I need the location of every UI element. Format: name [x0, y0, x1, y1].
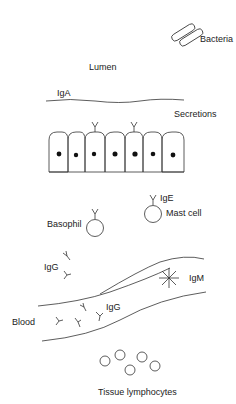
lumen-label: Lumen [89, 63, 117, 72]
epithelium [49, 122, 184, 172]
basophil-label: Basophil [47, 220, 82, 229]
secretion-line [46, 99, 184, 102]
tissue-lymphocytes [100, 350, 160, 375]
basophil-cell [87, 209, 104, 237]
bacteria-label: Bacteria [200, 35, 233, 44]
igm-pentamer-icon [159, 268, 179, 288]
tissue-lymphocytes-label: Tissue lymphocytes [98, 388, 177, 397]
iga-receptor-icon [92, 122, 98, 132]
secretions-label: Secretions [174, 110, 217, 119]
ige-antibody-icon [92, 209, 98, 219]
ige-antibody-icon [150, 195, 156, 205]
blood-label: Blood [12, 318, 35, 327]
iga-label: IgA [57, 89, 71, 98]
immunoglobulin-diagram: Bacteria Lumen IgA Secretions IgE Mast c… [0, 0, 236, 404]
iga-receptor-icon [131, 122, 137, 132]
igg-blood-label: IgG [106, 303, 121, 312]
cell-nuclei [57, 151, 176, 157]
blood-vessel [38, 257, 206, 341]
mast-cell [145, 195, 162, 223]
igg-tissue-antibodies [63, 251, 71, 279]
diagram-graphics [0, 0, 236, 404]
igm-label: IgM [189, 274, 204, 283]
ige-label: IgE [160, 194, 174, 203]
igg-blood-antibodies [56, 303, 103, 327]
igg-tissue-label: IgG [44, 263, 59, 272]
mast-cell-label: Mast cell [166, 209, 202, 218]
